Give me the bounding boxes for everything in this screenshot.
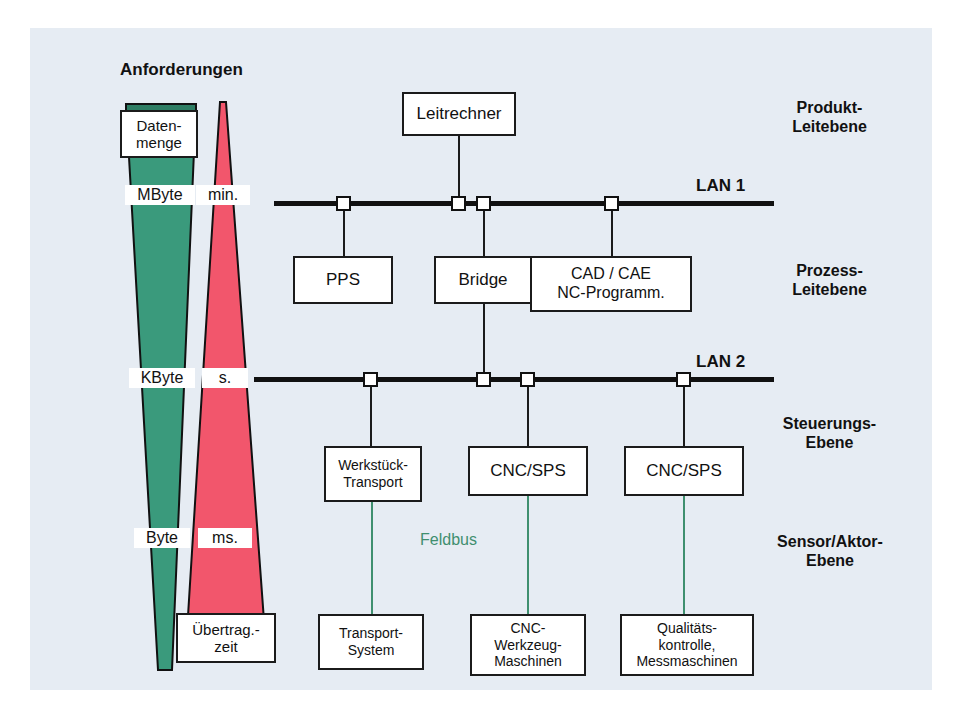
data-volume-scale-byte: Byte <box>134 528 190 548</box>
node-cnc-sps-2[interactable]: CNC/SPS <box>624 446 744 496</box>
link-bridge-lan2 <box>483 304 485 378</box>
data-volume-cap-label: Daten- menge <box>120 110 198 158</box>
diagram-page: Anforderungen Daten- menge MByte KByte B… <box>0 0 962 723</box>
link-lan2-werkstueck <box>370 380 372 448</box>
bus-node-lan1-cad[interactable] <box>604 196 619 211</box>
node-pps[interactable]: PPS <box>293 256 393 304</box>
node-leitrechner[interactable]: Leitrechner <box>402 92 516 136</box>
transfer-time-scale-ms: ms. <box>198 528 252 548</box>
node-transport-system[interactable]: Transport- System <box>318 614 424 670</box>
node-werkstueck-transport[interactable]: Werkstück- Transport <box>324 446 422 502</box>
node-cnc-sps-1[interactable]: CNC/SPS <box>468 446 588 496</box>
bus-label-lan1: LAN 1 <box>696 176 745 196</box>
transfer-time-cap-label: Übertrag.- zeit <box>176 613 276 663</box>
node-bridge[interactable]: Bridge <box>434 256 532 304</box>
feldbus-label: Feldbus <box>420 531 477 549</box>
link-lan2-cnc1 <box>527 380 529 448</box>
link-leitrechner-lan1 <box>458 136 460 204</box>
link-lan1-pps <box>343 204 345 256</box>
bus-node-lan1-leitrechner[interactable] <box>451 196 466 211</box>
level-label-steuerungs-ebene: Steuerungs- Ebene <box>742 414 917 452</box>
level-label-prozess-leitebene: Prozess- Leitebene <box>742 261 917 299</box>
feldbus-link-cnc2 <box>683 496 685 614</box>
bus-lan2 <box>254 377 774 382</box>
link-lan2-cnc2 <box>683 380 685 448</box>
bus-node-lan2-cnc2[interactable] <box>676 372 691 387</box>
level-label-sensor-aktor-ebene: Sensor/Aktor- Ebene <box>735 532 925 570</box>
node-cnc-werkzeug-maschinen[interactable]: CNC- Werkzeug- Maschinen <box>470 614 586 676</box>
link-lan1-bridge <box>483 204 485 256</box>
node-qualitaetskontrolle[interactable]: Qualitäts- kontrolle, Messmaschinen <box>620 614 754 676</box>
diagram-panel: Anforderungen Daten- menge MByte KByte B… <box>30 28 932 690</box>
bus-label-lan2: LAN 2 <box>696 352 745 372</box>
bus-node-lan1-pps[interactable] <box>336 196 351 211</box>
node-cad-cae[interactable]: CAD / CAE NC-Programm. <box>530 256 692 312</box>
feldbus-link-transport <box>371 502 373 614</box>
transfer-time-scale-s: s. <box>202 368 248 388</box>
bus-node-lan2-werkstueck[interactable] <box>363 372 378 387</box>
bus-node-lan2-cnc1[interactable] <box>520 372 535 387</box>
link-lan1-cad <box>611 204 613 256</box>
level-label-produkt-leitebene: Produkt- Leitebene <box>742 98 917 136</box>
feldbus-link-cnc1 <box>527 496 529 614</box>
bus-node-lan1-bridge[interactable] <box>476 196 491 211</box>
transfer-time-scale-min: min. <box>196 185 250 205</box>
data-volume-scale-mbyte: MByte <box>125 185 195 205</box>
bus-node-lan2-bridge[interactable] <box>476 372 491 387</box>
data-volume-scale-kbyte: KByte <box>129 368 195 388</box>
